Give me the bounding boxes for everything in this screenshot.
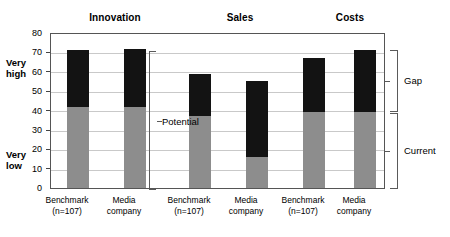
bracket-label-potential: Potential: [162, 117, 199, 127]
bar-segment-gap: [67, 50, 89, 106]
bracket-gap: [390, 50, 398, 112]
bar-segment-gap: [354, 50, 376, 112]
gridline-30: [51, 131, 384, 132]
bar-costs-media: [354, 50, 376, 188]
bar-segment-gap: [189, 74, 211, 117]
bar-sales-media: [246, 81, 268, 188]
bar-segment-gap: [246, 81, 268, 157]
gridline-40: [51, 111, 384, 112]
group-title-costs: Costs: [295, 12, 405, 23]
ytick-label-70: 70: [26, 48, 42, 57]
bar-segment-gap: [124, 49, 146, 107]
ytick-label-40: 40: [26, 107, 42, 116]
bracket-label-current: Current: [404, 146, 436, 156]
scale-label-very-low-line1: Very: [6, 149, 26, 160]
bracket-current-tick: [385, 151, 390, 152]
xlabel-sales-benchmark-line2: (n=107): [159, 206, 219, 217]
scale-label-very-low-line2: low: [6, 160, 22, 171]
bar-innovation-benchmark: [67, 50, 89, 188]
ytick-label-80: 80: [26, 29, 42, 38]
gridline-70: [51, 53, 384, 54]
ytick-label-20: 20: [26, 145, 42, 154]
ytick-label-10: 10: [26, 165, 42, 174]
gridline-50: [51, 92, 384, 93]
scale-label-very-high-line1: Very: [6, 57, 26, 68]
bracket-label-gap: Gap: [404, 76, 422, 86]
ytick-label-30: 30: [26, 126, 42, 135]
bar-segment-current: [303, 112, 325, 188]
bracket-gap-tick: [385, 81, 390, 82]
bar-segment-current: [354, 112, 376, 188]
ytick-label-0: 0: [26, 184, 42, 193]
xlabel-sales-media-line2: company: [216, 206, 276, 217]
ytick-label-50: 50: [26, 87, 42, 96]
bar-chart: Innovation Sales Costs 80 70 60 50 40 30…: [0, 0, 450, 237]
bar-sales-benchmark: [189, 74, 211, 188]
bracket-potential: [149, 51, 156, 190]
bar-segment-current: [189, 116, 211, 188]
xlabel-sales-media-line1: Media: [216, 195, 276, 206]
xlabel-costs-media-line2: company: [324, 206, 384, 217]
bar-segment-gap: [303, 58, 325, 112]
ytick-label-60: 60: [26, 68, 42, 77]
bar-segment-current: [124, 107, 146, 188]
bar-segment-current: [246, 157, 268, 188]
gridline-60: [51, 72, 384, 73]
bar-segment-current: [67, 107, 89, 188]
gridline-10: [51, 170, 384, 171]
bracket-current: [390, 113, 398, 189]
xlabel-innovation-media-line1: Media: [94, 195, 154, 206]
group-title-sales: Sales: [185, 12, 295, 23]
scale-label-very-high-line2: high: [6, 68, 26, 79]
xlabel-innovation-media-line2: company: [94, 206, 154, 217]
bar-costs-benchmark: [303, 58, 325, 188]
xlabel-costs-media-line1: Media: [324, 195, 384, 206]
xlabel-innovation-benchmark-line2: (n=107): [37, 206, 97, 217]
xlabel-sales-benchmark-line1: Benchmark: [159, 195, 219, 206]
bar-innovation-media: [124, 49, 146, 189]
group-title-innovation: Innovation: [60, 12, 170, 23]
gridline-20: [51, 150, 384, 151]
xlabel-innovation-benchmark-line1: Benchmark: [37, 195, 97, 206]
plot-area: [50, 33, 385, 189]
